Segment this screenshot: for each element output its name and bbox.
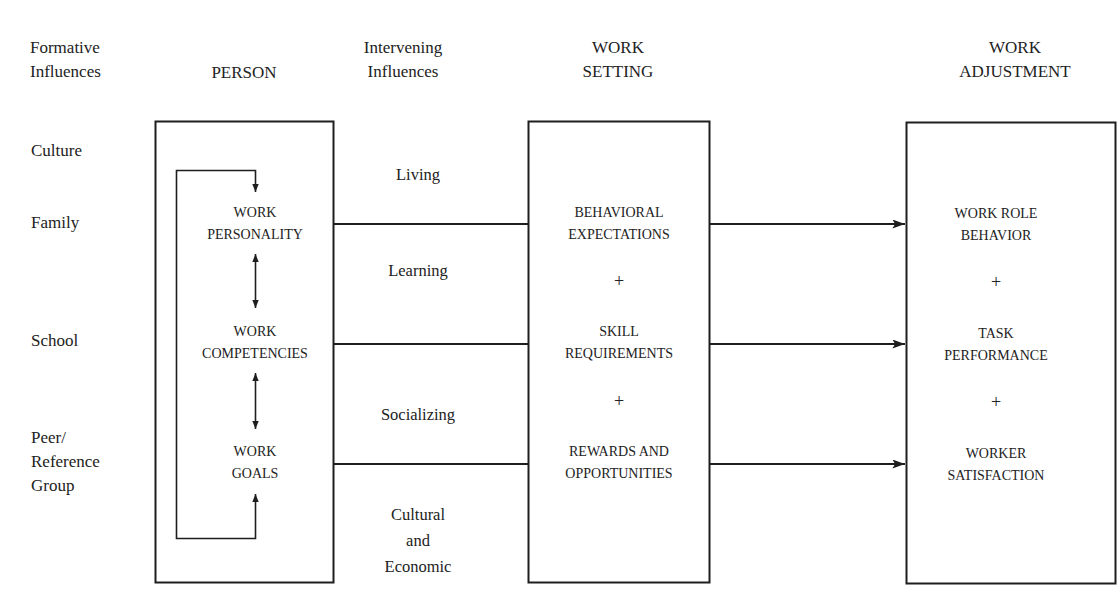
peer-line3: Group xyxy=(31,474,100,498)
header-work-setting: WORK SETTING xyxy=(548,36,688,84)
cultural-line2: and xyxy=(343,528,493,554)
intervening-living: Living xyxy=(343,162,493,188)
work-setting-behavioral-expectations: BEHAVIORAL EXPECTATIONS xyxy=(530,202,708,246)
header-person: PERSON xyxy=(175,61,313,85)
work-adjustment-worker-satisfaction: WORKER SATISFACTION xyxy=(908,443,1084,487)
work-adjustment-task-performance: TASK PERFORMANCE xyxy=(908,323,1084,367)
wa-item-line1: WORK ROLE xyxy=(908,203,1084,225)
person-work-goals: WORK GOALS xyxy=(185,441,325,485)
person-item-line2: GOALS xyxy=(185,463,325,485)
ws-item-line2: OPPORTUNITIES xyxy=(530,463,708,485)
wa-item-line2: BEHAVIOR xyxy=(908,225,1084,247)
wa-item-line2: SATISFACTION xyxy=(908,465,1084,487)
person-item-line1: WORK xyxy=(185,441,325,463)
wa-item-line1: TASK xyxy=(908,323,1084,345)
formative-family: Family xyxy=(31,211,79,235)
header-intervening-line1: Intervening xyxy=(343,36,463,60)
cultural-line1: Cultural xyxy=(343,502,493,528)
work-adjustment-plus-1: + xyxy=(908,271,1084,294)
person-item-line1: WORK xyxy=(185,321,325,343)
work-setting-plus-2: + xyxy=(530,390,708,413)
wa-item-line1: WORKER xyxy=(908,443,1084,465)
person-work-personality: WORK PERSONALITY xyxy=(185,202,325,246)
work-setting-plus-1: + xyxy=(530,270,708,293)
cultural-line3: Economic xyxy=(343,554,493,580)
peer-line2: Reference xyxy=(31,450,100,474)
work-setting-rewards-opportunities: REWARDS AND OPPORTUNITIES xyxy=(530,441,708,485)
header-work-adjustment-line1: WORK xyxy=(920,36,1110,60)
header-work-adjustment-line2: ADJUSTMENT xyxy=(920,60,1110,84)
formative-school: School xyxy=(31,329,78,353)
header-formative-influences: Formative Influences xyxy=(30,36,101,84)
ws-item-line1: BEHAVIORAL xyxy=(530,202,708,224)
person-work-competencies: WORK COMPETENCIES xyxy=(185,321,325,365)
header-intervening-influences: Intervening Influences xyxy=(343,36,463,84)
person-item-line2: COMPETENCIES xyxy=(185,343,325,365)
intervening-learning: Learning xyxy=(343,258,493,284)
intervening-cultural-economic: Cultural and Economic xyxy=(343,502,493,580)
ws-item-line1: SKILL xyxy=(530,321,708,343)
person-item-line1: WORK xyxy=(185,202,325,224)
formative-peer-reference-group: Peer/ Reference Group xyxy=(31,426,100,498)
intervening-socializing: Socializing xyxy=(343,402,493,428)
header-work-setting-line1: WORK xyxy=(548,36,688,60)
person-item-line2: PERSONALITY xyxy=(185,224,325,246)
header-formative-line2: Influences xyxy=(30,60,101,84)
formative-culture: Culture xyxy=(31,139,82,163)
header-work-setting-line2: SETTING xyxy=(548,60,688,84)
header-intervening-line2: Influences xyxy=(343,60,463,84)
ws-item-line2: EXPECTATIONS xyxy=(530,224,708,246)
ws-item-line1: REWARDS AND xyxy=(530,441,708,463)
wa-item-line2: PERFORMANCE xyxy=(908,345,1084,367)
work-setting-skill-requirements: SKILL REQUIREMENTS xyxy=(530,321,708,365)
work-adjustment-work-role-behavior: WORK ROLE BEHAVIOR xyxy=(908,203,1084,247)
header-formative-line1: Formative xyxy=(30,36,101,60)
ws-item-line2: REQUIREMENTS xyxy=(530,343,708,365)
header-work-adjustment: WORK ADJUSTMENT xyxy=(920,36,1110,84)
diagram-lines xyxy=(0,0,1117,614)
peer-line1: Peer/ xyxy=(31,426,100,450)
work-adjustment-plus-2: + xyxy=(908,391,1084,414)
